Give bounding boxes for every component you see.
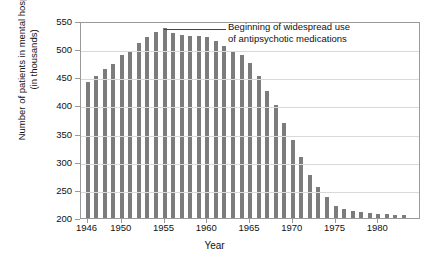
y-axis-tick-mark bbox=[75, 191, 80, 192]
bar bbox=[299, 157, 303, 218]
gridline bbox=[81, 51, 419, 52]
bar bbox=[274, 105, 278, 218]
bar bbox=[351, 211, 355, 218]
bar bbox=[334, 206, 338, 218]
y-axis-tick-mark bbox=[75, 163, 80, 164]
y-axis-tick-mark bbox=[75, 78, 80, 79]
bar bbox=[171, 33, 175, 218]
x-axis-tick-mark bbox=[87, 219, 88, 223]
bar bbox=[368, 213, 372, 218]
y-axis-tick-mark bbox=[75, 106, 80, 107]
bar bbox=[291, 140, 295, 218]
x-axis-tick-mark bbox=[377, 219, 378, 223]
bar bbox=[111, 64, 115, 218]
y-axis-tick-mark bbox=[75, 135, 80, 136]
bar bbox=[308, 175, 312, 218]
x-axis-tick-label: 1960 bbox=[186, 222, 226, 233]
bar bbox=[359, 212, 363, 218]
annotation-leader-horizontal bbox=[164, 29, 226, 30]
bar bbox=[145, 37, 149, 218]
bar bbox=[376, 214, 380, 219]
x-axis-tick-mark bbox=[206, 219, 207, 223]
x-axis-tick-mark bbox=[335, 219, 336, 223]
bar bbox=[393, 215, 397, 218]
bar bbox=[385, 214, 389, 218]
plot-area bbox=[80, 22, 420, 219]
bar bbox=[86, 82, 90, 218]
y-axis-title-line1: Number of patients in mental hospitals bbox=[16, 0, 27, 140]
bar bbox=[163, 28, 167, 218]
y-axis-tick-label: 400 bbox=[26, 100, 72, 111]
bar bbox=[402, 215, 406, 218]
bar bbox=[154, 32, 158, 218]
x-axis-tick-mark bbox=[121, 219, 122, 223]
y-axis-tick-label: 350 bbox=[26, 129, 72, 140]
gridline bbox=[81, 107, 419, 108]
chart-figure: Number of patients in mental hospitals (… bbox=[0, 0, 429, 262]
x-axis-tick-label: 1975 bbox=[315, 222, 355, 233]
annotation-line2: of antipsychotic medications bbox=[228, 33, 428, 45]
x-axis-tick-label: 1970 bbox=[272, 222, 312, 233]
bar bbox=[188, 36, 192, 218]
x-axis-tick-label: 1950 bbox=[101, 222, 141, 233]
y-axis-tick-mark bbox=[75, 219, 80, 220]
y-axis-tick-label: 300 bbox=[26, 157, 72, 168]
bar bbox=[265, 91, 269, 218]
x-axis-tick-label: 1965 bbox=[229, 222, 269, 233]
annotation-line1: Beginning of widespread use bbox=[228, 21, 350, 32]
bar bbox=[325, 197, 329, 218]
gridline bbox=[81, 136, 419, 137]
bar bbox=[180, 35, 184, 218]
x-axis-tick-mark bbox=[249, 219, 250, 223]
y-axis-tick-label: 500 bbox=[26, 44, 72, 55]
bar bbox=[257, 76, 261, 218]
y-axis-tick-label: 250 bbox=[26, 185, 72, 196]
bar bbox=[342, 209, 346, 218]
x-axis-title: Year bbox=[0, 240, 429, 251]
bar bbox=[197, 36, 201, 218]
x-axis-tick-label: 1980 bbox=[357, 222, 397, 233]
gridline bbox=[81, 164, 419, 165]
bar-series bbox=[81, 23, 419, 218]
x-axis-tick-mark bbox=[292, 219, 293, 223]
y-axis-tick-mark bbox=[75, 50, 80, 51]
y-axis-tick-label: 550 bbox=[26, 16, 72, 27]
bar bbox=[248, 63, 252, 218]
gridline bbox=[81, 192, 419, 193]
y-axis-tick-label: 450 bbox=[26, 72, 72, 83]
bar bbox=[282, 123, 286, 218]
y-axis-tick-mark bbox=[75, 22, 80, 23]
x-axis-tick-mark bbox=[164, 219, 165, 223]
gridline bbox=[81, 79, 419, 80]
annotation-label: Beginning of widespread use of antipsych… bbox=[228, 21, 428, 44]
bar bbox=[94, 76, 98, 218]
x-axis-tick-label: 1955 bbox=[144, 222, 184, 233]
bar bbox=[103, 69, 107, 218]
y-axis-tick-label: 200 bbox=[26, 213, 72, 224]
